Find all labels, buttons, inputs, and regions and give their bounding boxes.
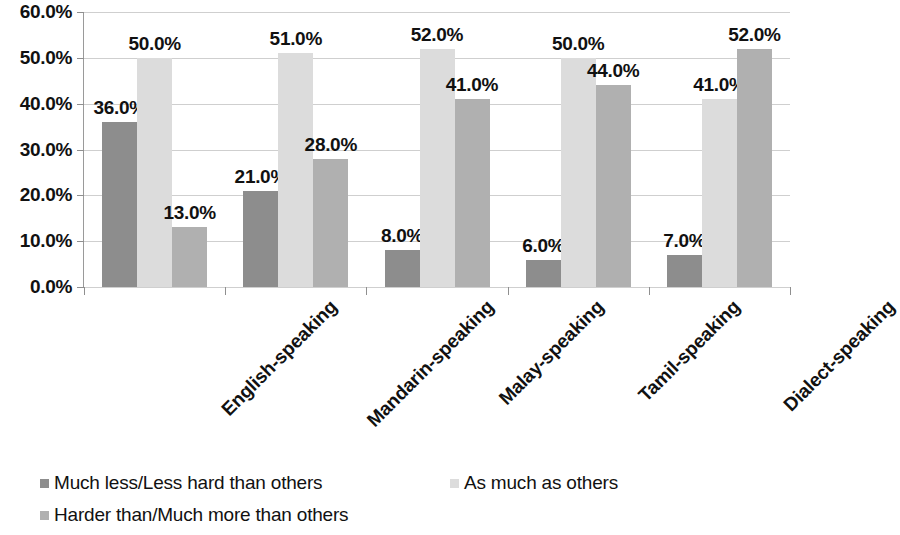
- bar-group: 36.0%50.0%13.0%: [84, 12, 225, 287]
- y-tick-mark: [77, 58, 84, 59]
- legend-item[interactable]: Harder than/Much more than others: [40, 504, 348, 526]
- category-tick: [225, 287, 226, 295]
- x-tick-label: Malay-speaking: [495, 296, 609, 410]
- bar-value-label: 6.0%: [522, 235, 564, 257]
- bar-group-bars: 8.0%52.0%41.0%: [366, 12, 507, 287]
- y-tick-mark: [77, 287, 84, 288]
- bar-group-bars: 6.0%50.0%44.0%: [508, 12, 649, 287]
- category-tick: [84, 287, 85, 295]
- bar-group-bars: 36.0%50.0%13.0%: [84, 12, 225, 287]
- bar-value-label: 52.0%: [411, 24, 463, 46]
- legend-item[interactable]: As much as others: [450, 472, 618, 494]
- x-tick-label: Tamil-speaking: [634, 296, 744, 406]
- bar[interactable]: 36.0%: [102, 122, 137, 287]
- bar-value-label: 8.0%: [381, 225, 423, 247]
- bar-value-label: 7.0%: [663, 230, 705, 252]
- y-tick-label: 10.0%: [20, 230, 72, 252]
- bar[interactable]: 44.0%: [596, 85, 631, 287]
- x-tick-label: English-speaking: [217, 296, 342, 421]
- bar[interactable]: 28.0%: [313, 159, 348, 287]
- category-tick: [790, 287, 791, 295]
- bar-group: 8.0%52.0%41.0%: [366, 12, 507, 287]
- legend-label: Harder than/Much more than others: [54, 504, 348, 526]
- y-tick-label: 0.0%: [30, 276, 72, 298]
- bar-group: 21.0%51.0%28.0%: [225, 12, 366, 287]
- bar-value-label: 51.0%: [270, 28, 322, 50]
- y-tick-mark: [77, 195, 84, 196]
- y-tick-mark: [77, 104, 84, 105]
- bar[interactable]: 21.0%: [243, 191, 278, 287]
- bar-value-label: 50.0%: [552, 33, 604, 55]
- y-tick-label: 60.0%: [20, 1, 72, 23]
- legend: Much less/Less hard than othersAs much a…: [40, 472, 780, 532]
- bar-group: 7.0%41.0%52.0%: [649, 12, 790, 287]
- bar-value-label: 44.0%: [587, 60, 639, 82]
- bar[interactable]: 50.0%: [137, 58, 172, 287]
- y-tick-label: 40.0%: [20, 93, 72, 115]
- bar[interactable]: 50.0%: [561, 58, 596, 287]
- legend-item[interactable]: Much less/Less hard than others: [40, 472, 322, 494]
- bar-value-label: 41.0%: [446, 74, 498, 96]
- bar-value-label: 13.0%: [163, 202, 215, 224]
- legend-label: As much as others: [464, 472, 618, 494]
- category-tick: [649, 287, 650, 295]
- y-tick-label: 20.0%: [20, 184, 72, 206]
- bar[interactable]: 41.0%: [455, 99, 490, 287]
- bar-value-label: 28.0%: [305, 134, 357, 156]
- bar-group-bars: 7.0%41.0%52.0%: [649, 12, 790, 287]
- bar-value-label: 50.0%: [128, 33, 180, 55]
- legend-label: Much less/Less hard than others: [54, 472, 322, 494]
- y-tick-mark: [77, 12, 84, 13]
- y-axis: 60.0%50.0%40.0%30.0%20.0%10.0%0.0%: [0, 0, 78, 300]
- category-tick: [366, 287, 367, 295]
- y-tick-label: 50.0%: [20, 47, 72, 69]
- bar[interactable]: 52.0%: [737, 49, 772, 287]
- y-tick-mark: [77, 150, 84, 151]
- y-tick-label: 30.0%: [20, 139, 72, 161]
- bar-groups: 36.0%50.0%13.0%21.0%51.0%28.0%8.0%52.0%4…: [84, 12, 790, 287]
- bar-value-label: 52.0%: [728, 24, 780, 46]
- bar[interactable]: 6.0%: [526, 260, 561, 288]
- bar-group: 6.0%50.0%44.0%: [508, 12, 649, 287]
- legend-swatch-icon: [40, 511, 49, 520]
- bar[interactable]: 51.0%: [278, 53, 313, 287]
- category-tick: [508, 287, 509, 295]
- x-tick-label: Dialect-speaking: [780, 296, 900, 416]
- bar-group-bars: 21.0%51.0%28.0%: [225, 12, 366, 287]
- bar[interactable]: 41.0%: [702, 99, 737, 287]
- x-tick-label: Mandarin-speaking: [362, 296, 498, 432]
- bar[interactable]: 13.0%: [172, 227, 207, 287]
- bar[interactable]: 8.0%: [385, 250, 420, 287]
- legend-swatch-icon: [40, 479, 49, 488]
- plot-area: 36.0%50.0%13.0%21.0%51.0%28.0%8.0%52.0%4…: [84, 12, 790, 287]
- legend-swatch-icon: [450, 479, 459, 488]
- y-tick-mark: [77, 241, 84, 242]
- x-axis-labels: English-speakingMandarin-speakingMalay-s…: [84, 296, 790, 446]
- gridline: [84, 287, 790, 288]
- bar[interactable]: 7.0%: [667, 255, 702, 287]
